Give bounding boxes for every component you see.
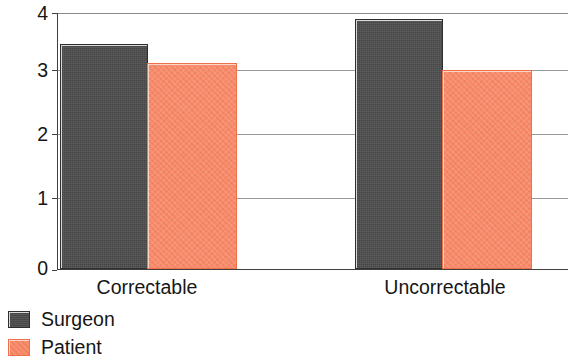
y-tickmark-0 — [52, 270, 57, 271]
x-category-label-correctable: Correctable — [57, 276, 237, 298]
legend: Surgeon Patient — [8, 306, 268, 362]
y-tick-label-2: 2 — [2, 125, 48, 145]
bar-surgeon-correctable — [60, 44, 148, 269]
y-tick-label-1: 1 — [2, 189, 48, 209]
bar-chart-figure: 4 3 2 1 0 Correctable Uncorrectable Surg… — [0, 0, 575, 362]
bar-surgeon-uncorrectable — [355, 19, 443, 269]
bar-patient-correctable — [147, 63, 237, 269]
legend-item-patient[interactable]: Patient — [8, 334, 268, 360]
y-tick-label-3: 3 — [2, 61, 48, 81]
legend-swatch-icon-patient — [8, 339, 30, 356]
legend-item-surgeon[interactable]: Surgeon — [8, 306, 268, 332]
y-tick-label-4: 4 — [2, 4, 48, 24]
gridline-4 — [58, 13, 568, 14]
legend-label-patient: Patient — [41, 337, 102, 358]
bar-patient-uncorrectable — [442, 70, 532, 269]
x-category-label-uncorrectable: Uncorrectable — [350, 276, 540, 298]
legend-label-surgeon: Surgeon — [41, 309, 115, 330]
y-tick-label-0: 0 — [2, 259, 48, 279]
legend-swatch-icon-surgeon — [8, 311, 30, 328]
plot-area — [57, 13, 568, 270]
